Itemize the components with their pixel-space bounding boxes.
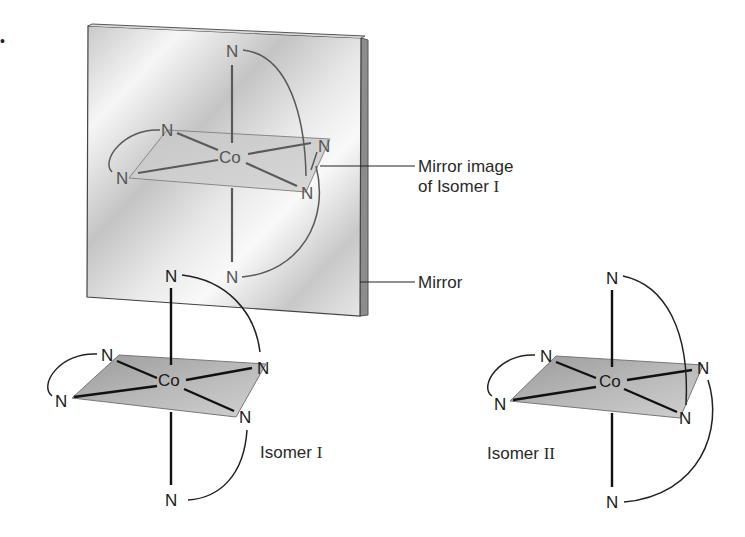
octahedral-isomers-figure: • N N N N N N Co Mir <box>0 0 745 537</box>
mirror-n-right-back: N <box>318 137 330 156</box>
mirror-n-right-front: N <box>301 184 313 203</box>
isomer-1-co: Co <box>158 371 180 390</box>
mirror-n-bottom: N <box>226 268 238 287</box>
isomer-1-n-right-front: N <box>239 408 251 427</box>
mirror-co: Co <box>219 148 241 167</box>
isomer-2-n-right-front: N <box>679 409 691 428</box>
isomer-1-n-bottom: N <box>165 491 177 510</box>
mirror-n-left-front: N <box>116 169 128 188</box>
isomer-2-n-left-front: N <box>494 395 506 414</box>
callout-mirror: Mirror <box>418 273 463 292</box>
isomer-2-n-top: N <box>606 269 618 288</box>
isomer-1-n-left-back: N <box>101 346 113 365</box>
callout-mirror-image-line2: of Isomer I <box>418 177 500 196</box>
isomer-1-n-left-front: N <box>55 392 67 411</box>
mirror-n-top: N <box>226 42 238 61</box>
callout-mirror-image-line1: Mirror image <box>418 157 513 176</box>
bullet-marker: • <box>0 33 5 49</box>
isomer-1-n-right-back: N <box>257 359 269 378</box>
isomer-2-complex: N N N N N N Co <box>488 269 713 512</box>
isomer-2-n-bottom: N <box>606 493 618 512</box>
mirror-n-left-back: N <box>161 121 173 140</box>
isomer-1-label: Isomer I <box>260 443 323 462</box>
isomer-2-co: Co <box>599 372 621 391</box>
isomer-1-n-top: N <box>165 267 177 286</box>
isomer-2-n-right-back: N <box>697 359 709 378</box>
isomer-2-n-left-back: N <box>540 347 552 366</box>
isomer-2-label: Isomer II <box>487 444 555 463</box>
